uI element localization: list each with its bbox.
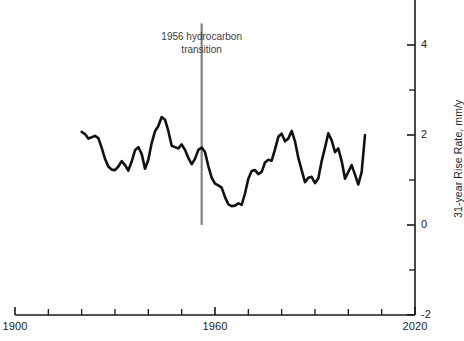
annotation-text-line: 1956 hydrocarbon <box>122 31 282 42</box>
y-axis-title: 31-year Rise Rate, mm/y <box>452 100 464 218</box>
annotation-text-line: transition <box>122 44 282 55</box>
y-tick-label: 0 <box>421 218 427 230</box>
x-axis-ticks <box>15 307 415 315</box>
x-tick-label: 1960 <box>185 320 245 332</box>
y-axis-ticks <box>407 45 415 315</box>
x-tick-label: 1900 <box>0 320 45 332</box>
x-tick-label: 2020 <box>385 320 445 332</box>
y-tick-label: -2 <box>421 308 431 320</box>
y-tick-label: 4 <box>421 38 427 50</box>
chart-series <box>82 117 365 206</box>
rise-rate-line <box>82 117 365 206</box>
y-tick-label: 2 <box>421 128 427 140</box>
